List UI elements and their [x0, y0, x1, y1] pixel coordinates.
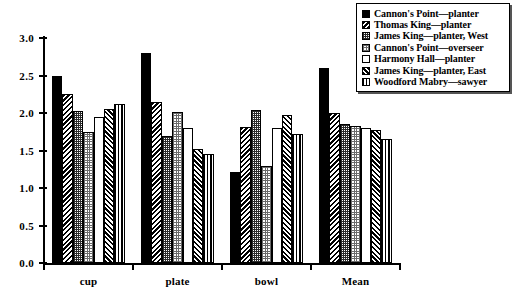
bar: [319, 68, 329, 263]
legend-item-label: James King—planter, West: [374, 31, 488, 41]
chart-legend: Cannon's Point—planterThomas King—plante…: [356, 3, 510, 92]
bar: [340, 124, 350, 263]
x-tick: [310, 263, 312, 270]
y-tick-label: 0.0: [0, 258, 34, 268]
bar: [251, 110, 261, 263]
x-axis-category-label: cup: [44, 275, 133, 287]
bar: [381, 139, 391, 263]
bar: [203, 154, 213, 263]
bar: [73, 111, 83, 263]
legend-swatch-icon: [362, 44, 370, 52]
legend-item: James King—planter, East: [362, 65, 505, 76]
legend-item: Harmony Hall—planter: [362, 54, 505, 65]
legend-item: James King—planter, West: [362, 31, 505, 42]
x-tick: [132, 263, 134, 270]
legend-swatch-icon: [362, 10, 370, 18]
bar: [329, 113, 339, 263]
x-tick: [221, 263, 223, 270]
legend-item: Thomas King—planter: [362, 19, 505, 30]
legend-item: Cannon's Point—overseer: [362, 42, 505, 53]
legend-item-label: Thomas King—planter: [374, 20, 471, 30]
legend-item-label: James King—planter, East: [374, 66, 486, 76]
bar: [83, 132, 93, 263]
bar: [52, 76, 62, 264]
y-tick-label: 2.0: [0, 108, 34, 118]
x-axis-category-label: plate: [133, 275, 222, 287]
bar: [350, 126, 360, 263]
legend-item-label: Cannon's Point—overseer: [374, 43, 484, 53]
bar: [104, 109, 114, 263]
bar: [282, 115, 292, 264]
bar: [230, 172, 240, 264]
bar: [114, 104, 124, 263]
y-tick-label: 0.5: [0, 221, 34, 231]
legend-swatch-icon: [362, 21, 370, 29]
bar: [261, 166, 271, 264]
legend-item: Cannon's Point—planter: [362, 8, 505, 19]
bar: [94, 117, 104, 263]
bar: [292, 134, 302, 263]
bar: [272, 128, 282, 263]
y-tick-label: 1.5: [0, 146, 34, 156]
y-tick-label: 2.5: [0, 71, 34, 81]
bar: [162, 136, 172, 264]
bar: [183, 128, 193, 263]
x-tick: [43, 263, 45, 270]
x-axis-category-label: bowl: [222, 275, 311, 287]
x-axis-category-label: Mean: [311, 275, 400, 287]
x-tick: [399, 263, 401, 270]
bar: [361, 128, 371, 263]
legend-swatch-icon: [362, 67, 370, 75]
legend-item: Woodford Mabry—sawyer: [362, 76, 505, 87]
legend-swatch-icon: [362, 55, 370, 63]
y-tick-label: 3.0: [0, 33, 34, 43]
bar: [141, 53, 151, 263]
y-tick-label: 1.0: [0, 183, 34, 193]
bar: [240, 127, 250, 264]
legend-item-label: Cannon's Point—planter: [374, 9, 479, 19]
bar-chart: 0.00.51.01.52.02.53.0 cupplatebowlMean C…: [0, 0, 513, 299]
bar: [371, 130, 381, 264]
legend-item-label: Harmony Hall—planter: [374, 54, 475, 64]
bar: [193, 149, 203, 263]
bar: [62, 94, 72, 263]
bar: [151, 102, 161, 263]
legend-swatch-icon: [362, 78, 370, 86]
bar: [172, 112, 182, 264]
legend-swatch-icon: [362, 32, 370, 40]
plot-area: [44, 38, 400, 263]
legend-item-label: Woodford Mabry—sawyer: [374, 77, 487, 87]
